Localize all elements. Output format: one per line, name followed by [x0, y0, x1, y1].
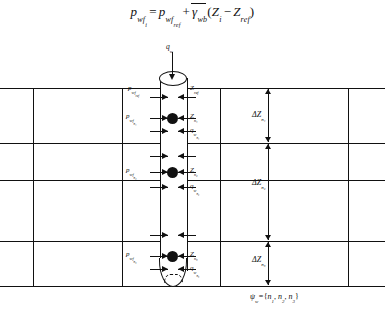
grid-vline-4	[348, 88, 349, 286]
gamma-wb-term: γwb	[192, 4, 207, 20]
perforation-arrow	[150, 253, 168, 260]
arrow-head-left	[178, 94, 184, 100]
completion-set-label: ψw={n1, n2, n3}	[250, 292, 299, 301]
perforation-arrow	[150, 94, 168, 101]
equation-lhs: pwfi	[131, 4, 148, 19]
close-paren: )	[250, 4, 255, 19]
equals-sign: =	[147, 4, 159, 19]
perforation-arrow	[178, 153, 196, 160]
perforation-node	[167, 167, 178, 178]
grid-hline-bottom	[0, 286, 385, 287]
inflow-rate-label: qw	[166, 42, 173, 51]
depth-increment-arrow-head-bottom	[265, 137, 271, 142]
arrow-head-left	[178, 253, 184, 259]
perforation-arrow	[150, 184, 168, 191]
depth-i: Zi	[212, 4, 222, 19]
perforation-rate-label: qwn₂	[190, 182, 199, 191]
inflow-arrow-head	[169, 74, 175, 80]
perforation-pressure-label: pwfn₂	[126, 166, 136, 175]
depth-increment-label: ΔZn₁	[252, 110, 265, 119]
depth-increment-shaft	[268, 242, 269, 285]
arrow-head-right	[162, 266, 168, 272]
perforation-rate-label: qwn₁	[190, 126, 199, 135]
arrow-head-right	[162, 184, 168, 190]
grid-hline-3	[0, 180, 385, 181]
figure-canvas: pwfi=pwfref+γwb(Zi−Zref) qw pwfref Zref …	[0, 0, 385, 313]
perforation-pressure-label: pwfn₁	[126, 112, 136, 121]
wellbore-pressure-equation: pwfi=pwfref+γwb(Zi−Zref)	[0, 4, 385, 20]
perforation-rate-label: qwn₃	[190, 264, 199, 273]
grid-hline-2	[0, 143, 385, 144]
depth-increment-shaft	[268, 89, 269, 142]
arrow-head-left	[178, 232, 184, 238]
perforation-arrow	[178, 94, 196, 101]
grid-hline-4	[0, 241, 385, 242]
perforation-depth-label: Zn₃	[190, 250, 198, 258]
perforation-arrow	[150, 128, 168, 135]
depth-increment-shaft	[268, 144, 269, 240]
perforation-arrow	[150, 169, 168, 176]
depth-increment-arrow-head-bottom	[265, 235, 271, 240]
arrow-head-left	[178, 266, 184, 272]
overbar	[191, 3, 206, 4]
perforation-depth-label: Zn₁	[190, 112, 198, 120]
grid-vline-1	[33, 88, 34, 286]
equation-rhs-pressure: pwfref	[159, 4, 181, 19]
perforation-node	[167, 113, 178, 124]
perforation-arrow	[178, 232, 196, 239]
arrow-head-left	[178, 128, 184, 134]
perforation-pressure-label: pwfn₃	[126, 250, 136, 259]
arrow-head-right	[162, 94, 168, 100]
arrow-head-left	[178, 153, 184, 159]
reference-pressure-label: pwfref	[128, 84, 139, 93]
arrow-head-left	[178, 169, 184, 175]
perforation-node	[167, 251, 178, 262]
arrow-head-right	[162, 153, 168, 159]
perforation-arrow	[150, 266, 168, 273]
depth-increment-arrow-head-bottom	[265, 280, 271, 285]
arrow-head-right	[162, 128, 168, 134]
plus-sign: +	[181, 4, 193, 19]
arrow-head-left	[178, 115, 184, 121]
depth-ref: Zref	[233, 4, 250, 19]
perforation-arrow	[150, 115, 168, 122]
perforation-depth-label: Zn₂	[190, 166, 198, 174]
minus-sign: −	[222, 4, 234, 19]
grid-vline-2	[122, 88, 123, 286]
depth-increment-label: ΔZn₃	[252, 255, 265, 264]
perforation-arrow	[150, 153, 168, 160]
reference-depth-label: Zref	[190, 84, 199, 92]
arrow-head-left	[178, 184, 184, 190]
depth-increment-label: ΔZn₂	[252, 178, 265, 187]
grid-vline-3	[220, 88, 221, 286]
arrow-head-right	[162, 232, 168, 238]
perforation-arrow	[150, 232, 168, 239]
wellbore-bottom-dashed-ellipse	[164, 274, 183, 283]
inflow-arrow-shaft	[172, 52, 173, 76]
